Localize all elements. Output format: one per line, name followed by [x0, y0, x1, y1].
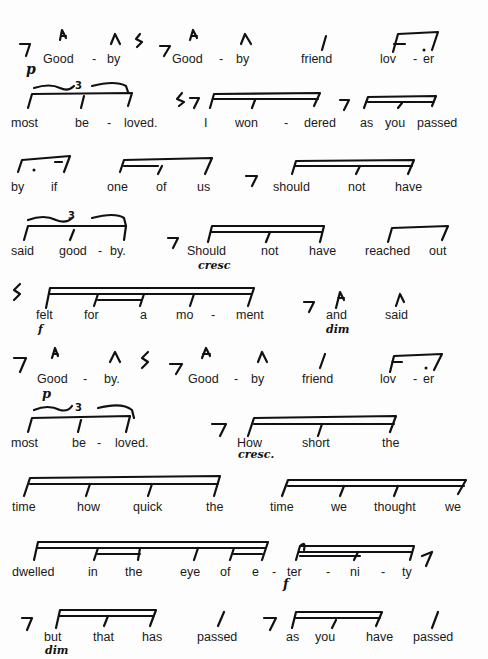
lyric-word: passed: [413, 630, 453, 644]
lyric-word: most: [11, 436, 38, 450]
lyric-word: loved.: [124, 116, 157, 130]
lyric-word: Good: [43, 52, 74, 66]
lyric-word: time: [12, 500, 36, 514]
lyric-word: not: [261, 244, 278, 258]
dynamic-marking: cresc.: [238, 449, 274, 461]
tuplet-number: 3: [75, 402, 82, 413]
lyric-word: e: [252, 565, 259, 579]
lyric-word: thought: [374, 500, 416, 514]
lyric-word: time: [270, 500, 294, 514]
lyric-hyphen: -: [83, 372, 87, 386]
lyric-word: we: [331, 500, 347, 514]
lyric-word: of: [156, 180, 166, 194]
tuplet-number: 3: [68, 210, 75, 221]
lyric-word: by: [251, 372, 264, 386]
lyric-word: and: [326, 308, 347, 322]
lyric-word: mo: [176, 308, 193, 322]
lyric-word: passed: [197, 630, 237, 644]
lyric-word: said: [11, 244, 34, 258]
lyric-word: we: [445, 500, 461, 514]
lyric-word: ni: [350, 565, 360, 579]
lyric-word: have: [395, 180, 422, 194]
lyric-hyphen: -: [211, 308, 215, 322]
lyric-hyphen: -: [107, 116, 111, 130]
lyric-word: ment: [236, 308, 264, 322]
lyric-hyphen: -: [92, 52, 96, 66]
lyric-hyphen: -: [413, 52, 417, 66]
lyric-word: passed: [417, 116, 457, 130]
lyric-hyphen: -: [381, 565, 385, 579]
dynamic-marking: dim: [326, 324, 350, 336]
lyric-word: ter: [287, 565, 302, 579]
dynamic-marking: f: [283, 578, 289, 590]
lyric-word: that: [93, 630, 114, 644]
lyric-word: the: [125, 565, 142, 579]
lyric-word: loved.: [115, 436, 148, 450]
lyric-word: for: [84, 308, 99, 322]
lyric-word: as: [360, 116, 373, 130]
lyric-word: of: [220, 565, 230, 579]
lyric-word: has: [142, 630, 162, 644]
dynamic-marking: p: [42, 388, 51, 400]
lyric-word: I: [204, 116, 207, 130]
lyric-word: Good: [172, 52, 203, 66]
lyric-word: by: [236, 52, 249, 66]
lyric-hyphen: -: [98, 244, 102, 258]
lyric-word: dwelled: [12, 565, 54, 579]
system-6-notation: [14, 348, 442, 374]
system-7-notation: [28, 405, 396, 436]
lyric-word: Good: [37, 372, 68, 386]
lyric-word: have: [309, 244, 336, 258]
lyric-word: should: [273, 180, 310, 194]
lyric-word: have: [366, 630, 393, 644]
lyric-word: eye: [180, 565, 200, 579]
lyric-word: how: [77, 500, 100, 514]
lyric-word: be: [72, 436, 86, 450]
lyric-word: most: [11, 116, 38, 130]
lyric-word: lov: [380, 52, 396, 66]
lyric-word: out: [429, 244, 446, 258]
lyric-word: reached: [365, 244, 410, 258]
lyric-word: er: [423, 52, 434, 66]
lyric-word: felt: [36, 308, 53, 322]
system-8-notation: [24, 476, 466, 496]
lyric-word: by: [11, 180, 24, 194]
lyric-word: by: [107, 52, 120, 66]
lyric-word: as: [286, 630, 299, 644]
dynamic-marking: p: [26, 63, 36, 75]
lyric-word: won: [235, 116, 258, 130]
lyric-word: you: [315, 630, 335, 644]
lyric-word: er: [423, 372, 434, 386]
dynamic-marking: f: [38, 324, 43, 336]
dynamic-marking: dim: [45, 645, 69, 657]
lyric-word: you: [385, 116, 405, 130]
lyric-word: the: [382, 436, 399, 450]
lyric-word: dered: [304, 116, 336, 130]
lyric-word: in: [88, 565, 98, 579]
lyric-word: but: [44, 630, 61, 644]
lyric-word: not: [348, 180, 365, 194]
lyric-hyphen: -: [284, 116, 288, 130]
system-1-notation: [20, 30, 438, 56]
lyric-word: ty: [402, 565, 412, 579]
lyric-word: by.: [110, 244, 126, 258]
lyric-word: short: [302, 436, 330, 450]
lyric-word: quick: [133, 500, 162, 514]
lyric-word: us: [197, 180, 210, 194]
lyric-word: the: [206, 500, 223, 514]
lyric-hyphen: -: [326, 565, 330, 579]
lyric-word: a: [140, 308, 147, 322]
system-9-notation: [34, 542, 432, 566]
lyric-hyphen: -: [272, 565, 276, 579]
lyric-word: good: [59, 244, 87, 258]
lyric-word: one: [107, 180, 128, 194]
lyric-hyphen: -: [219, 52, 223, 66]
rhythm-notation: [0, 0, 488, 659]
lyric-word: Should: [187, 244, 226, 258]
lyric-hyphen: -: [413, 372, 417, 386]
system-10-notation: [22, 610, 438, 630]
tuplet-number: 3: [75, 80, 82, 91]
lyric-hyphen: -: [97, 436, 101, 450]
lyric-word: Good: [188, 372, 219, 386]
lyric-word: said: [385, 308, 408, 322]
